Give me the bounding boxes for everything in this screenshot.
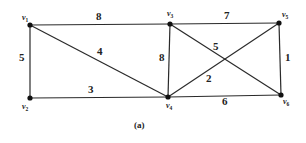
figure-caption: (a) <box>134 120 145 130</box>
vertex-label-v3: v3 <box>167 9 174 19</box>
edge-weight-v1-v2: 5 <box>19 51 25 63</box>
edge-weight-v4-v5: 2 <box>206 72 212 84</box>
vertex-v4-dot <box>165 94 170 99</box>
vertex-label-v4: v4 <box>166 101 173 111</box>
edge-weight-v3-v6: 5 <box>213 40 219 52</box>
vertex-label-v1: v1 <box>22 13 29 23</box>
edge-v1-v4 <box>30 25 168 97</box>
vertex-v3-dot <box>167 21 172 26</box>
vertex-label-v6: v6 <box>283 97 290 107</box>
edge-weight-v3-v5: 7 <box>224 9 230 21</box>
vertex-v5-dot <box>276 20 281 25</box>
edge-weight-v2-v4: 3 <box>88 83 94 95</box>
weighted-graph-diagram: 8543875216 v1v2v3v4v5v6 (a) <box>0 0 306 143</box>
edge-v3-v5 <box>170 23 279 24</box>
edges-group <box>30 23 281 98</box>
vertex-v1-dot <box>27 22 32 27</box>
vertex-label-v5: v5 <box>282 10 289 20</box>
edge-v4-v5 <box>168 23 279 97</box>
edge-weight-v1-v3: 8 <box>96 10 102 22</box>
vertex-label-v2: v2 <box>22 102 29 112</box>
edge-v5-v6 <box>279 23 281 95</box>
edge-weight-v3-v4: 8 <box>159 51 165 63</box>
edge-v1-v3 <box>30 24 170 25</box>
vertex-v2-dot <box>27 95 32 100</box>
edge-weight-v1-v4: 4 <box>97 45 103 57</box>
edge-weight-v4-v6: 6 <box>222 95 228 107</box>
edge-v3-v4 <box>168 24 170 97</box>
vertices-group <box>27 20 283 100</box>
edge-weight-v5-v6: 1 <box>285 51 291 63</box>
edge-v2-v4 <box>30 97 168 98</box>
